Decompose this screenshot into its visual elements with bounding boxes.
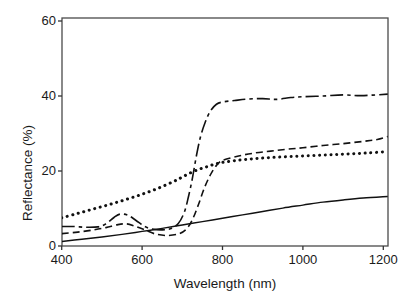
x-axis-title: Wavelength (nm) <box>62 276 388 291</box>
y-tick-label: 0 <box>26 239 56 253</box>
y-tick-label: 60 <box>26 14 56 28</box>
x-tick-label: 600 <box>120 253 164 267</box>
x-tick-label: 1000 <box>281 253 325 267</box>
x-tick-label: 1200 <box>361 253 405 267</box>
plot-frame <box>62 18 388 246</box>
figure: Reflectance (%) Wavelength (nm) 40060080… <box>0 0 411 307</box>
x-tick-label: 800 <box>201 253 245 267</box>
dotted-curve <box>62 152 384 218</box>
y-tick-label: 20 <box>26 164 56 178</box>
y-tick-label: 40 <box>26 89 56 103</box>
dash-dot-curve <box>62 94 388 230</box>
x-tick-label: 400 <box>40 253 84 267</box>
